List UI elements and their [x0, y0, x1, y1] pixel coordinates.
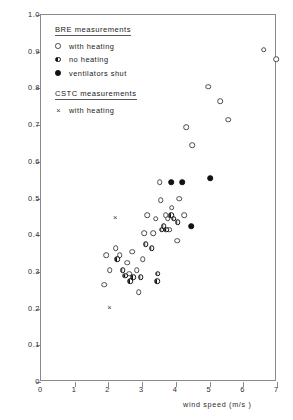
open-circle-marker — [55, 43, 61, 49]
x-tick-label: 2 — [105, 385, 109, 394]
y-tick-label: 0.3 — [6, 266, 40, 275]
cross-marker: × — [55, 107, 62, 114]
half-filled-circle-marker — [114, 256, 120, 262]
open-circle-marker — [189, 142, 195, 148]
y-tick-label: 0.2 — [6, 303, 40, 312]
cross-marker: × — [106, 303, 113, 310]
open-circle-marker — [113, 245, 119, 251]
legend-item-label: no heating — [69, 55, 109, 64]
legend-group: BRE measurementswith heatingno heatingve… — [55, 18, 205, 79]
open-circle-marker — [129, 249, 135, 255]
open-circle-marker — [169, 205, 175, 211]
legend-group-heading: BRE measurements — [55, 25, 131, 36]
half-filled-circle-marker — [55, 57, 61, 63]
x-tick-label: 7 — [274, 385, 278, 394]
legend-item-label: with heating — [69, 106, 114, 115]
filled-circle-marker — [168, 179, 174, 185]
y-tick-label: 0.4 — [6, 230, 40, 239]
half-filled-circle-marker — [164, 227, 170, 233]
open-circle-marker — [157, 179, 163, 185]
legend-item[interactable]: ventilators shut — [55, 67, 205, 79]
open-circle-marker — [176, 196, 182, 202]
open-circle-marker — [183, 124, 189, 130]
legend-item[interactable]: with heating — [55, 40, 205, 52]
open-circle-marker — [101, 282, 107, 288]
legend-symbol: × — [55, 107, 69, 114]
y-tick-label: 0.8 — [6, 83, 40, 92]
filled-circle-marker — [207, 176, 213, 182]
filled-circle-marker — [179, 179, 185, 185]
chart-legend: BRE measurementswith heatingno heatingve… — [55, 18, 205, 118]
half-filled-circle-marker — [154, 278, 160, 284]
x-tick-label: 6 — [240, 385, 244, 394]
open-circle-marker — [226, 117, 232, 123]
open-circle-marker — [150, 231, 156, 237]
scatter-chart: ×× 00.10.20.30.40.50.60.70.80.91.0 01234… — [0, 0, 293, 420]
half-filled-circle-marker — [175, 220, 181, 226]
y-tick-label: 0.9 — [6, 46, 40, 55]
open-circle-marker — [158, 198, 164, 204]
open-circle-marker — [261, 47, 267, 53]
open-circle-marker — [181, 212, 187, 218]
x-tick-label: 0 — [38, 385, 42, 394]
open-circle-marker — [274, 56, 280, 62]
legend-item[interactable]: no heating — [55, 54, 205, 66]
open-circle-marker — [205, 84, 211, 90]
y-tick-label: 0.6 — [6, 156, 40, 165]
filled-circle-marker — [189, 223, 195, 229]
open-circle-marker — [134, 267, 140, 273]
half-filled-circle-marker — [143, 242, 149, 248]
filled-circle-marker — [55, 70, 61, 76]
legend-group-heading: CSTC measurements — [55, 89, 137, 100]
half-filled-circle-marker — [155, 271, 161, 277]
y-tick-label: 0.7 — [6, 120, 40, 129]
open-circle-marker — [124, 260, 130, 266]
cross-marker: × — [112, 213, 119, 220]
half-filled-circle-marker — [138, 275, 144, 281]
legend-symbol — [55, 70, 69, 76]
y-tick-label: 0 — [6, 377, 40, 386]
open-circle-marker — [107, 267, 113, 273]
open-circle-marker — [140, 256, 146, 262]
legend-symbol — [55, 57, 69, 63]
half-filled-circle-marker — [131, 275, 137, 281]
y-tick-label: 0.1 — [6, 340, 40, 349]
legend-item-label: ventilators shut — [69, 69, 127, 78]
half-filled-circle-marker — [122, 273, 128, 279]
open-circle-marker — [218, 98, 224, 104]
y-tick-label: 0.5 — [6, 193, 40, 202]
x-tick-label: 4 — [173, 385, 177, 394]
legend-item-label: with heating — [69, 42, 114, 51]
y-tick-label: 1.0 — [6, 10, 40, 19]
legend-symbol — [55, 43, 69, 49]
open-circle-marker — [174, 238, 180, 244]
x-tick-label: 1 — [72, 385, 76, 394]
x-tick-label: 5 — [207, 385, 211, 394]
open-circle-marker — [103, 253, 109, 259]
x-axis-title: wind speed (m/s ) — [183, 400, 252, 409]
x-tick-label: 3 — [139, 385, 143, 394]
open-circle-marker — [136, 289, 142, 295]
half-filled-circle-marker — [149, 245, 155, 251]
legend-group: CSTC measurements×with heating — [55, 82, 205, 116]
open-circle-marker — [141, 231, 147, 237]
open-circle-marker — [144, 212, 150, 218]
legend-item[interactable]: ×with heating — [55, 104, 205, 116]
open-circle-marker — [153, 216, 159, 222]
